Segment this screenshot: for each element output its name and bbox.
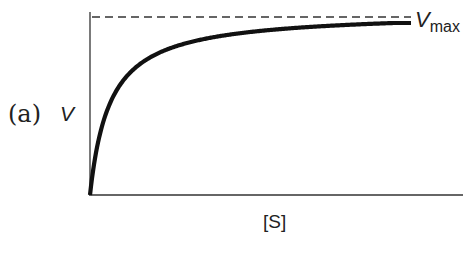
chart-plot — [0, 0, 463, 269]
vmax-label-subscript: max — [430, 18, 460, 35]
saturation-curve — [90, 23, 411, 195]
vmax-label: Vmax — [415, 7, 460, 33]
michaelis-menten-figure: (a) V [S] Vmax — [0, 0, 463, 269]
vmax-label-main: V — [415, 7, 430, 32]
y-axis-label: V — [60, 102, 74, 126]
panel-label: (a) — [8, 100, 41, 128]
x-axis-label: [S] — [263, 211, 286, 233]
